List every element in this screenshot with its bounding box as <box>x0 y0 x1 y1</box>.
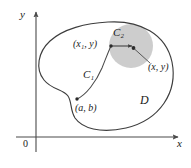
point-label-x1-y: (x₁, y) <box>73 39 97 49</box>
vector-field-region-diagram <box>0 0 191 168</box>
figure-container: y x 0 (x₁, y) C₂ (x, y) C₁ (a, b) D <box>0 0 191 168</box>
point-marker-x1-y <box>109 44 112 47</box>
origin-label: 0 <box>23 139 28 149</box>
point-label-x-y: (x, y) <box>148 62 169 72</box>
curve-label-c2: C₂ <box>113 27 124 38</box>
region-boundary <box>39 22 173 131</box>
region-label-d: D <box>140 94 149 106</box>
y-axis-label: y <box>20 9 25 20</box>
point-marker-a-b <box>75 97 78 100</box>
curve-label-c1: C₁ <box>83 69 94 80</box>
x-axis-label: x <box>177 138 182 149</box>
point-label-a-b: (a, b) <box>75 103 97 113</box>
